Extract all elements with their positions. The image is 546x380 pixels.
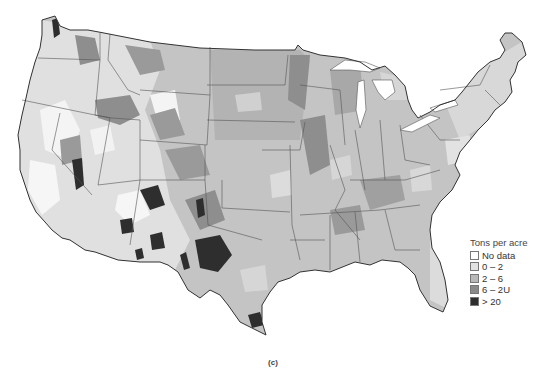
legend-item-0-2: 0 – 2 [470, 261, 528, 273]
map-legend: Tons per acre No data 0 – 2 2 – 6 6 – 2U… [470, 238, 528, 307]
legend-item-over-20: > 20 [470, 296, 528, 308]
us-choropleth-map [0, 0, 546, 380]
legend-label: 6 – 2U [482, 285, 510, 295]
legend-swatch-no-data [470, 251, 479, 260]
legend-label: No data [482, 251, 515, 261]
legend-item-6-20: 6 – 2U [470, 284, 528, 296]
legend-label: 0 – 2 [482, 262, 503, 272]
legend-swatch-6-20 [470, 285, 479, 294]
legend-item-2-6: 2 – 6 [470, 273, 528, 285]
legend-swatch-0-2 [470, 262, 479, 271]
legend-swatch-over-20 [470, 297, 479, 306]
legend-item-no-data: No data [470, 250, 528, 262]
legend-label: 2 – 6 [482, 274, 503, 284]
legend-swatch-2-6 [470, 274, 479, 283]
legend-label: > 20 [482, 297, 501, 307]
figure-caption: (c) [0, 358, 546, 367]
legend-title: Tons per acre [470, 238, 528, 248]
